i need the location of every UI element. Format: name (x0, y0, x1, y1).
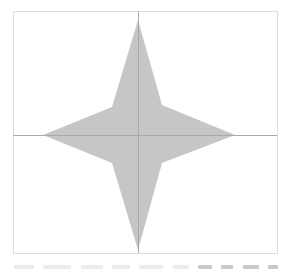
caption-segment (81, 265, 103, 269)
caption-segment (112, 265, 130, 269)
caption-strip (14, 262, 278, 271)
caption-segment (139, 265, 163, 269)
caption-segment (198, 265, 212, 269)
caption-segment (14, 265, 34, 269)
star-diagram (0, 0, 291, 273)
caption-segment (243, 265, 259, 269)
caption-segment (221, 265, 233, 269)
caption-segment (173, 265, 189, 269)
caption-segment (43, 265, 71, 269)
caption-segment (268, 265, 278, 269)
